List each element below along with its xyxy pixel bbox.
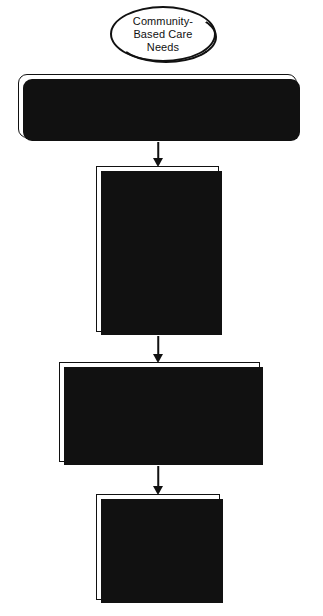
health-teaching-line-1: Health Teaching [97, 174, 218, 188]
diagram-canvas: Community- Based Care Needs Andrea Wang … [0, 0, 323, 616]
health-care-resources-line-1: Health Care [97, 502, 219, 516]
header-line-3: Rehabilitation and Continuity of Care [19, 119, 296, 133]
node-health-teaching-label: Health Teaching [97, 174, 218, 188]
header-line-2: Spinal Cord Injury [19, 105, 296, 119]
box-drop-shadow [101, 171, 222, 335]
node-community-based-care-needs-label: Community- Based Care Needs [133, 15, 193, 54]
connector-line [157, 142, 159, 159]
health-care-resources-line-2: Resources [97, 516, 219, 530]
oval-line-1: Community- [133, 15, 193, 28]
node-community-based-care-needs[interactable]: Community- Based Care Needs [110, 6, 216, 62]
node-health-care-resources[interactable]: Health Care Resources [96, 494, 220, 600]
node-health-teaching[interactable]: Health Teaching [96, 166, 219, 332]
node-home-care-management[interactable]: Home Care Management [59, 362, 260, 462]
node-home-care-management-label: Home Care Management [60, 370, 259, 384]
header-line-1: Andrea Wang [19, 91, 296, 105]
node-health-care-resources-label: Health Care Resources [97, 502, 219, 530]
oval-line-2: Based Care [133, 28, 193, 41]
connector-line [157, 466, 159, 487]
connector-health-teaching-to-home-care-management [148, 336, 168, 363]
connector-header-to-health-teaching [148, 142, 168, 167]
oval-line-3: Needs [133, 41, 193, 54]
connector-home-care-management-to-health-care-resources [148, 466, 168, 495]
node-header-title-label: Andrea Wang Spinal Cord Injury Rehabilit… [19, 91, 296, 133]
node-header-title-box[interactable]: Andrea Wang Spinal Cord Injury Rehabilit… [18, 74, 297, 138]
home-care-management-line-1: Home Care Management [60, 370, 259, 384]
connector-line [157, 336, 159, 355]
